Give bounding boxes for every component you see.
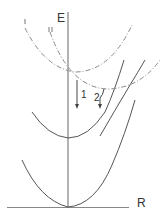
- dashed-curve-II: [50, 32, 160, 89]
- curve-label-II: [49, 27, 52, 32]
- energy-diagram: 1 2 E R: [0, 0, 165, 217]
- transition-label-2: 2: [94, 92, 100, 103]
- ground-state-curve: [22, 100, 135, 207]
- upper-right-curve: [100, 60, 145, 136]
- energy-axis-label: E: [57, 11, 65, 25]
- distance-axis-label: R: [137, 196, 146, 210]
- transition-arrow-1: [75, 80, 79, 109]
- dashed-curve-I: [25, 25, 132, 72]
- transition-label-1: 1: [81, 89, 87, 100]
